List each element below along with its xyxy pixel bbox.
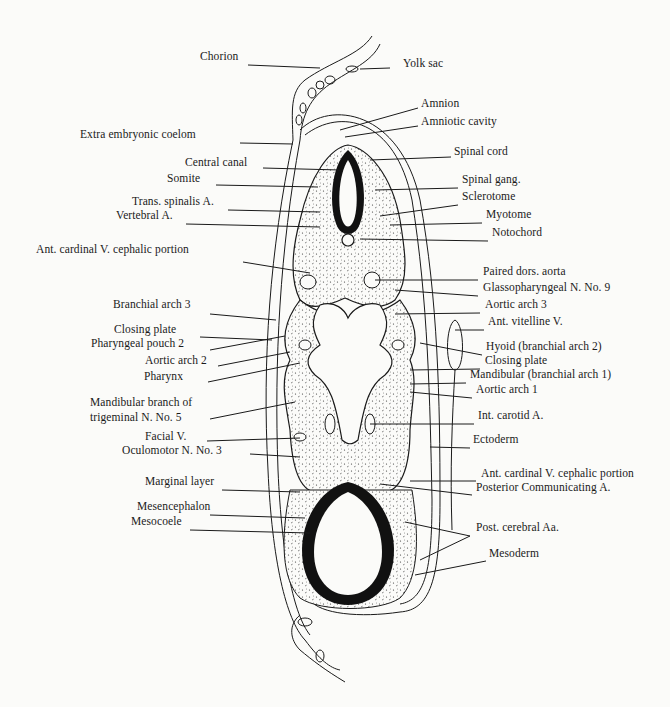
- label-aortic-arch-2: Aortic arch 2: [145, 354, 207, 367]
- label-ant-cardinal-v-lower: Ant. cardinal V. cephalic portion: [481, 467, 634, 480]
- leader-line: [200, 337, 272, 340]
- label-central-canal: Central canal: [185, 156, 247, 169]
- leader-line: [395, 290, 478, 296]
- label-spinal-gang: Spinal gang.: [462, 173, 521, 186]
- leader-line: [345, 126, 418, 137]
- label-trans-spinalis-a: Trans. spinalis A.: [132, 195, 214, 208]
- label-facial-v: Facial V.: [145, 430, 186, 443]
- leader-line: [410, 392, 472, 398]
- leader-line: [390, 223, 482, 225]
- leader-line: [218, 352, 290, 366]
- leader-line: [420, 536, 470, 560]
- leader-line: [248, 65, 320, 68]
- label-ectoderm: Ectoderm: [473, 433, 519, 446]
- leader-line: [210, 314, 276, 320]
- notochord: [342, 234, 354, 246]
- leader-line: [207, 438, 300, 441]
- label-branchial-arch-3: Branchial arch 3: [113, 298, 191, 311]
- leader-line: [340, 108, 418, 130]
- label-hyoid: Hyoid (branchial arch 2): [486, 340, 602, 353]
- leader-line: [410, 383, 466, 384]
- label-yolk-sac: Yolk sac: [403, 57, 443, 70]
- leader-line: [210, 402, 295, 419]
- lower-membrane: [292, 615, 345, 682]
- leader-line: [415, 561, 486, 575]
- label-aortic-arch-1: Aortic arch 1: [476, 383, 538, 396]
- label-amniotic-cavity: Amniotic cavity: [421, 115, 497, 128]
- leader-line: [216, 185, 318, 187]
- label-sclerotome: Sclerotome: [462, 190, 515, 203]
- label-ant-cardinal-v-upper: Ant. cardinal V. cephalic portion: [36, 243, 189, 256]
- label-aortic-arch-3: Aortic arch 3: [485, 298, 547, 311]
- label-mandibular-arch-1: Mandibular (branchial arch 1): [470, 368, 611, 381]
- embryo-cross-section-drawing: [0, 0, 670, 707]
- diagram-stage: ChorionExtra embryonic coelomCentral can…: [0, 0, 670, 707]
- label-int-carotid-a: Int. carotid A.: [478, 409, 543, 422]
- label-paired-dors-aorta: Paired dors. aorta: [483, 265, 566, 278]
- label-somite: Somite: [167, 172, 200, 185]
- label-spinal-cord: Spinal cord: [454, 145, 508, 158]
- label-chorion: Chorion: [200, 50, 238, 63]
- label-closing-plate-right: Closing plate: [485, 354, 547, 367]
- leader-line: [222, 490, 300, 492]
- label-myotome: Myotome: [486, 208, 531, 221]
- leader-line: [360, 68, 390, 69]
- label-amnion: Amnion: [421, 97, 459, 110]
- label-trigeminal-n5: trigeminal N. No. 5: [90, 411, 182, 424]
- leader-line: [370, 157, 451, 160]
- chorion-yolk-sac: [292, 36, 380, 140]
- label-pharyngeal-pouch-2: Pharyngeal pouch 2: [91, 337, 184, 350]
- label-mesoderm: Mesoderm: [489, 547, 539, 560]
- label-vertebral-a: Vertebral A.: [116, 209, 173, 222]
- label-closing-plate-left: Closing plate: [114, 323, 176, 336]
- label-extra-embryonic-coelom: Extra embryonic coelom: [80, 128, 196, 141]
- label-notochord: Notochord: [492, 226, 542, 239]
- label-pharynx: Pharynx: [144, 370, 183, 383]
- leader-line: [420, 343, 482, 355]
- label-mesencephalon: Mesencephalon: [137, 500, 210, 513]
- label-posterior-communicating-a: Posterior Communicating A.: [476, 481, 611, 494]
- leader-line: [240, 143, 293, 144]
- label-post-cerebral-aa: Post. cerebral Aa.: [476, 521, 559, 534]
- label-oculomotor-n3: Oculomotor N. No. 3: [122, 444, 222, 457]
- label-mandibular-branch: Mandibular branch of: [90, 396, 192, 409]
- label-mesocoele: Mesocoele: [131, 515, 182, 528]
- label-ant-vitelline-v: Ant. vitelline V.: [488, 315, 563, 328]
- label-marginal-layer: Marginal layer: [145, 475, 214, 488]
- leader-line: [430, 447, 470, 448]
- label-glossopharyngeal-n9: Glassopharyngeal N. No. 9: [483, 281, 610, 294]
